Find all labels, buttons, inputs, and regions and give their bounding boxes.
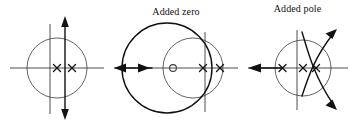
locus-arrow-right-icon — [138, 64, 150, 73]
locus-arrow-left-icon — [248, 63, 261, 72]
panel-added-zero: Added zero — [112, 0, 240, 126]
panel-base-system-plot — [0, 0, 112, 126]
locus-arrow-down-icon — [61, 109, 69, 120]
locus-arrow-down-right-icon — [326, 100, 338, 111]
locus-arrow-up-icon — [61, 16, 69, 27]
panel-added-pole-plot — [240, 0, 355, 126]
panel-added-zero-plot — [112, 0, 240, 126]
panel-base-system — [0, 0, 112, 126]
locus-arrow-left-icon — [114, 64, 126, 73]
locus-arrow-up-right-icon — [326, 29, 338, 39]
root-locus-figure: Added zero — [0, 0, 355, 126]
panel-added-pole: Added pole — [240, 0, 355, 126]
